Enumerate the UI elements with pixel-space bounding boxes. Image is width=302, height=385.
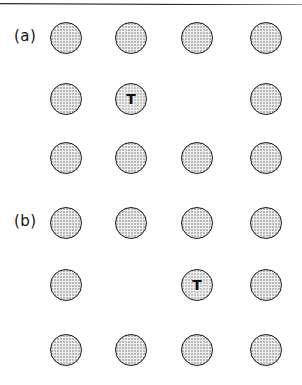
lattice-atom — [50, 334, 82, 366]
lattice-atom — [250, 142, 282, 174]
lattice-atom — [181, 142, 213, 174]
tracer-atom: T — [115, 83, 147, 115]
tracer-atom: T — [181, 269, 213, 301]
lattice-atom — [50, 207, 82, 239]
lattice-atom — [250, 334, 282, 366]
lattice-atom — [50, 269, 82, 301]
lattice-vacancy — [181, 83, 213, 115]
panel-label-b: (b) — [14, 214, 37, 229]
lattice-atom — [181, 334, 213, 366]
lattice-atom — [250, 269, 282, 301]
lattice-atom — [181, 22, 213, 54]
lattice-atom — [250, 83, 282, 115]
tracer-atom-label: T — [126, 92, 136, 106]
lattice-atom — [50, 83, 82, 115]
lattice-atom — [115, 22, 147, 54]
lattice-atom — [250, 207, 282, 239]
tracer-atom-label: T — [192, 278, 202, 292]
panel-label-a: (a) — [14, 29, 36, 44]
lattice-atom — [50, 142, 82, 174]
lattice-atom — [115, 142, 147, 174]
lattice-atom — [115, 334, 147, 366]
lattice-vacancy — [115, 269, 147, 301]
figure-canvas: (a)T(b)T — [0, 0, 302, 385]
top-rule — [0, 3, 302, 5]
lattice-atom — [50, 22, 82, 54]
lattice-atom — [250, 22, 282, 54]
lattice-atom — [115, 207, 147, 239]
lattice-atom — [181, 207, 213, 239]
